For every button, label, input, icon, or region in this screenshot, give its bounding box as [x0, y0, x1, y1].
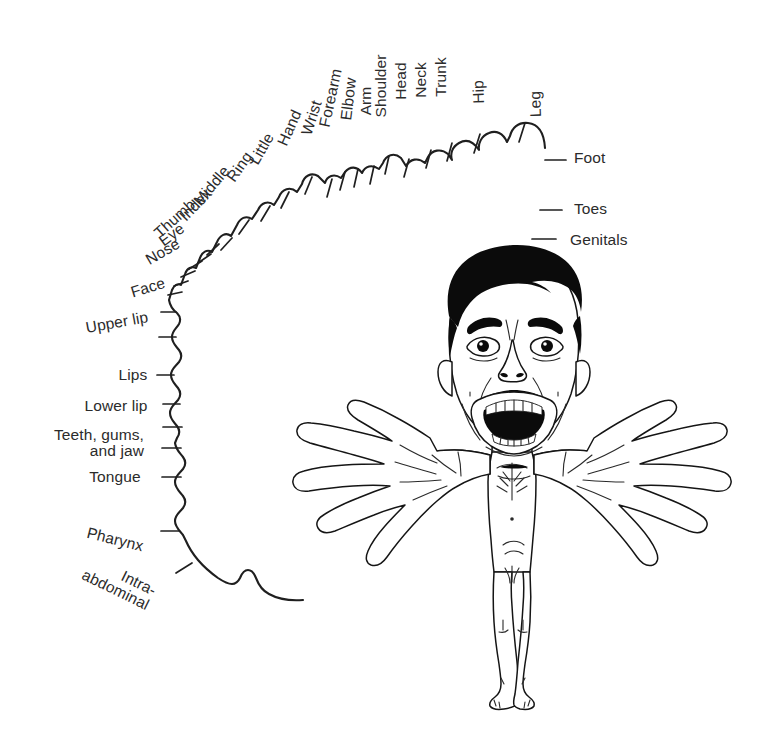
- homunculus-diagram: LegHipTrunkNeckHeadShoulderArmElbowForea…: [0, 0, 783, 737]
- navel: [510, 517, 514, 521]
- arc-label-trunk: Trunk: [433, 57, 450, 97]
- arc-label-foot: Foot: [574, 150, 605, 167]
- left-pupil: [477, 340, 489, 352]
- arc-label-shoulder: Shoulder: [373, 55, 390, 118]
- left-ear: [438, 360, 452, 396]
- arc-label-genitals: Genitals: [570, 232, 628, 249]
- arc-label-teeth-gums-jaw: Teeth, gums,and jaw: [54, 427, 144, 460]
- right-ear: [576, 360, 590, 396]
- homunculus-figure: [0, 0, 783, 737]
- arc-label-hip: Hip: [470, 80, 488, 104]
- arc-label-leg: Leg: [527, 91, 545, 118]
- arc-label-toes: Toes: [574, 201, 607, 218]
- arc-label-head: Head: [393, 62, 410, 99]
- left-eye-highlight: [479, 342, 483, 346]
- arc-label-tongue: Tongue: [89, 469, 140, 486]
- right-eye-highlight: [543, 342, 547, 346]
- right-leg: [514, 572, 535, 709]
- right-pupil: [541, 340, 553, 352]
- right-hand: [534, 400, 731, 565]
- arc-label-neck: Neck: [413, 62, 430, 98]
- arc-label-lower-lip: Lower lip: [85, 398, 148, 415]
- arc-label-arm: Arm: [358, 87, 375, 116]
- left-hand: [293, 400, 490, 565]
- arc-label-lips: Lips: [119, 367, 148, 384]
